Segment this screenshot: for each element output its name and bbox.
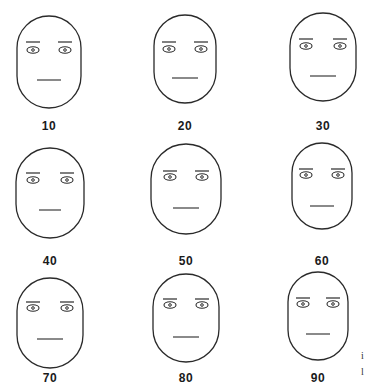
left-pupil <box>305 45 308 48</box>
left-eye <box>164 174 176 180</box>
head-outline <box>153 274 219 362</box>
left-eye <box>300 43 312 49</box>
face-20 <box>154 15 216 103</box>
head-outline <box>151 144 221 234</box>
face-40 <box>16 148 84 238</box>
head-outline <box>154 15 216 103</box>
face-70 <box>17 278 83 368</box>
face-label-50: 50 <box>156 254 216 268</box>
right-eye <box>196 302 208 308</box>
right-pupil <box>337 174 340 177</box>
left-eye <box>164 302 176 308</box>
cropped-text-fragment-2: l <box>361 366 364 378</box>
right-eye <box>59 47 71 53</box>
face-label-70: 70 <box>20 371 80 385</box>
head-outline <box>16 148 84 238</box>
right-eye <box>332 172 344 178</box>
head-outline <box>288 272 348 360</box>
left-pupil <box>168 48 171 51</box>
face-10 <box>17 16 81 108</box>
head-outline <box>17 278 83 368</box>
face-90 <box>288 272 348 360</box>
face-label-80: 80 <box>156 371 216 385</box>
left-eye <box>297 301 309 307</box>
face-30 <box>290 13 356 101</box>
cropped-text-fragment-1: i <box>361 350 364 362</box>
face-label-60: 60 <box>292 254 352 268</box>
right-eye <box>195 46 207 52</box>
face-label-20: 20 <box>155 119 215 133</box>
left-pupil <box>169 304 172 307</box>
face-label-40: 40 <box>20 254 80 268</box>
head-outline <box>17 16 81 108</box>
left-pupil <box>169 176 172 179</box>
left-pupil <box>305 174 308 177</box>
face-label-30: 30 <box>293 119 353 133</box>
left-pupil <box>32 179 35 182</box>
left-pupil <box>32 49 35 52</box>
right-pupil <box>66 307 69 310</box>
right-eye <box>61 177 73 183</box>
faces-figure <box>0 0 368 390</box>
left-eye <box>27 305 39 311</box>
right-eye <box>327 301 339 307</box>
left-eye <box>300 172 312 178</box>
left-pupil <box>302 303 305 306</box>
right-eye <box>196 174 208 180</box>
right-pupil <box>201 176 204 179</box>
left-pupil <box>32 307 35 310</box>
left-eye <box>27 47 39 53</box>
face-label-10: 10 <box>19 119 79 133</box>
left-eye <box>163 46 175 52</box>
right-pupil <box>200 48 203 51</box>
right-eye <box>334 43 346 49</box>
right-pupil <box>66 179 69 182</box>
face-60 <box>292 143 352 229</box>
face-80 <box>153 274 219 362</box>
left-eye <box>27 177 39 183</box>
head-outline <box>292 143 352 229</box>
face-50 <box>151 144 221 234</box>
right-pupil <box>201 304 204 307</box>
right-pupil <box>339 45 342 48</box>
right-eye <box>61 305 73 311</box>
right-pupil <box>64 49 67 52</box>
head-outline <box>290 13 356 101</box>
right-pupil <box>332 303 335 306</box>
face-label-90: 90 <box>288 371 348 385</box>
